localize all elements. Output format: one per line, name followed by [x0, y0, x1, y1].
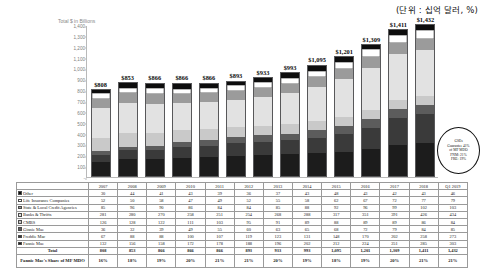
table-row-label: Life Insurance Companies [17, 197, 89, 204]
bar-segment-state-local [119, 93, 137, 103]
table-row-label: Fannie Mae [17, 240, 89, 247]
bar-total-label: $1,411 [390, 21, 407, 28]
bar-total-label: $993 [284, 64, 297, 71]
bar-column[interactable]: $1,309 [361, 44, 381, 177]
bar-total-label: $933 [257, 69, 270, 76]
bar-segment-cmbs [389, 100, 407, 109]
table-cell: 178 [205, 240, 234, 247]
y-tick-label: 700 [77, 100, 85, 105]
y-tick-label: 1,200 [74, 45, 86, 50]
table-cell: 148 [322, 233, 351, 240]
bar-segment-freddie-mac [119, 150, 137, 159]
y-tick-label: 1,000 [74, 67, 86, 72]
table-row: Other30444143393637434843424346 [17, 190, 468, 197]
bar-segment-ginnie-mae [362, 119, 380, 127]
y-tick-label: 1,400 [74, 24, 86, 29]
bar-segment-banks-thrifts [173, 103, 191, 130]
table-total-cell: 808 [89, 247, 118, 254]
y-tick-label: 1,300 [74, 34, 86, 39]
bar-column[interactable]: $866 [145, 83, 165, 177]
table-cell: 39 [147, 226, 176, 233]
bar-stack [199, 83, 219, 177]
table-cell: 251 [380, 240, 409, 247]
bar-column[interactable]: $933 [253, 77, 273, 177]
table-cell: 52 [234, 197, 263, 204]
bar-segment-cmbs [335, 117, 353, 127]
bar-segment-freddie-mac [335, 134, 353, 152]
bar-segment-cmbs [173, 130, 191, 142]
table-cell: 72 [351, 226, 380, 233]
table-body: Other30444143393637434843424346Life Insu… [17, 190, 468, 268]
table-cell: 95 [234, 218, 263, 225]
bar-total-label: $866 [148, 74, 161, 81]
bar-column[interactable]: $866 [172, 83, 192, 177]
table-year-header: 2011 [205, 183, 234, 190]
table-cell: 43 [176, 190, 205, 197]
table-cell: 126 [89, 218, 118, 225]
bar-column[interactable]: $853 [118, 82, 138, 177]
bar-segment-banks-thrifts [200, 102, 218, 129]
bar-column[interactable]: $893 [226, 81, 246, 177]
table-year-header: 2012 [234, 183, 263, 190]
bar-total-label: $893 [230, 72, 243, 79]
table-cell: 88 [322, 218, 351, 225]
table-cell: 172 [176, 240, 205, 247]
bar-segment-ginnie-mae [416, 105, 434, 114]
table-cell: 62 [322, 197, 351, 204]
bar-segment-fannie-mae [146, 159, 164, 176]
table-cell: 132 [89, 240, 118, 247]
bar-segment-state-local [335, 69, 353, 79]
bar-column[interactable]: $1,095 [307, 65, 327, 177]
bar-total-label: $866 [175, 74, 188, 81]
table-cell: 67 [89, 233, 118, 240]
bar-segment-life-insurance [362, 49, 380, 57]
bar-segment-ginnie-mae [335, 126, 353, 134]
table-cell: 156 [118, 240, 147, 247]
table-cell: 270 [147, 211, 176, 218]
table-row: Ginnie Mae36323949556063656872798485 [17, 226, 468, 233]
bar-segment-banks-thrifts [335, 79, 353, 116]
bar-column[interactable]: $808 [91, 89, 111, 177]
bar-segment-fannie-mae [362, 149, 380, 176]
table-cell: 88 [118, 233, 147, 240]
table-cell: 47 [176, 197, 205, 204]
row-label-text: State & Local Credit Agencies [23, 205, 77, 210]
table-cell: 46 [438, 190, 467, 197]
bar-column[interactable]: $866 [199, 83, 219, 177]
bar-column[interactable]: $1,432 [415, 24, 435, 177]
y-tick-label: 100 [77, 165, 85, 170]
bar-segment-freddie-mac [416, 114, 434, 143]
table-cell: 67 [351, 197, 380, 204]
bar-segment-banks-thrifts [416, 50, 434, 97]
bar-segment-banks-thrifts [362, 68, 380, 110]
bar-segment-cmbs [227, 127, 245, 137]
bar-total-label: $1,201 [335, 48, 353, 55]
bar-segment-fannie-mae [416, 143, 434, 175]
table-row: Freddie Mac67888810010711912313114817020… [17, 233, 468, 240]
legend-swatch-icon [18, 227, 22, 231]
bar-segment-cmbs [119, 133, 137, 147]
table-total-cell: 993 [292, 247, 321, 254]
bar-total-label: $808 [94, 81, 107, 88]
y-tick-label: 200 [77, 154, 85, 159]
bar-segment-ginnie-mae [308, 130, 326, 137]
table-share-cell: 19% [292, 254, 321, 267]
table-year-header: Q1 2019 [438, 183, 467, 190]
bar-column[interactable]: $1,411 [388, 29, 408, 177]
bar-stack [280, 72, 300, 177]
row-label-text: Other [23, 191, 33, 196]
table-cell: 72 [380, 197, 409, 204]
table-row-label: Banks & Thrifts [17, 211, 89, 218]
bar-column[interactable]: $1,201 [334, 56, 354, 177]
bar-segment-cmbs [254, 126, 272, 136]
table-cell: 84 [234, 204, 263, 211]
bar-stack [388, 29, 408, 177]
table-cell: 92 [322, 204, 351, 211]
bar-segment-fannie-mae [281, 154, 299, 176]
legend-swatch-icon [18, 213, 22, 217]
bar-stack [91, 89, 111, 177]
y-tick-label: 300 [77, 143, 85, 148]
bar-column[interactable]: $993 [280, 72, 300, 177]
table-cell: 258 [176, 211, 205, 218]
legend-swatch-icon [18, 220, 22, 224]
